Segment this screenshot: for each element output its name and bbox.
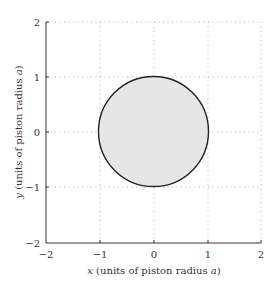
- y-axis-label-close: ): [13, 65, 24, 69]
- x-axis-label-close: ): [217, 265, 221, 276]
- x-tick-label: −1: [93, 249, 108, 260]
- x-axis-label: x (units of piston radius a): [87, 265, 220, 276]
- x-tick-label: −2: [39, 249, 54, 260]
- x-axis-label-text: (units of piston radius: [93, 265, 211, 276]
- y-axis-label: y (units of piston radius a): [13, 65, 24, 200]
- x-tick-label: 0: [151, 249, 157, 260]
- chart: 2 1 0 −1 −2 −2 −1 0 1 2 x (units of pist…: [0, 0, 277, 285]
- y-axis-label-text: (units of piston radius: [13, 75, 24, 193]
- x-tick-label: 2: [258, 249, 264, 260]
- y-tick-label: 2: [34, 17, 40, 28]
- x-tick-label: 1: [205, 249, 211, 260]
- y-tick-label: 1: [34, 72, 40, 83]
- x-tick-labels: −2 −1 0 1 2: [39, 249, 265, 260]
- y-tick-label: 0: [34, 127, 40, 138]
- y-tick-label: −2: [25, 238, 40, 249]
- y-tick-label: −1: [25, 182, 40, 193]
- piston-circle: [99, 77, 209, 187]
- y-tick-labels: 2 1 0 −1 −2: [25, 17, 40, 249]
